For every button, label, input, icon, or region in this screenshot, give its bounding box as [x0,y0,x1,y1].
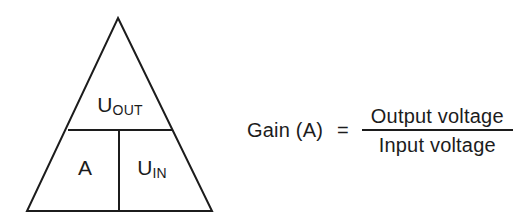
a-base: A [78,156,92,179]
fraction-numerator: Output voltage [369,105,506,129]
figure-canvas: UOUT A UIN Gain (A) = Output voltage Inp… [0,0,531,220]
u-out-subscript: OUT [113,102,143,118]
gain-equation: Gain (A) = Output voltage Input voltage [247,99,513,161]
u-in-base: U [137,156,152,179]
equation-left-term: Gain (A) [247,119,323,142]
fraction-denominator: Input voltage [377,131,498,156]
triangle-label-u-in: UIN [137,156,167,180]
equals-sign: = [337,119,349,142]
u-out-base: U [97,93,112,116]
fraction: Output voltage Input voltage [362,105,513,156]
gain-formula-triangle: UOUT A UIN [0,0,240,220]
u-in-subscript: IN [152,165,166,181]
triangle-label-u-out: UOUT [97,93,142,117]
triangle-label-a: A [78,156,92,180]
